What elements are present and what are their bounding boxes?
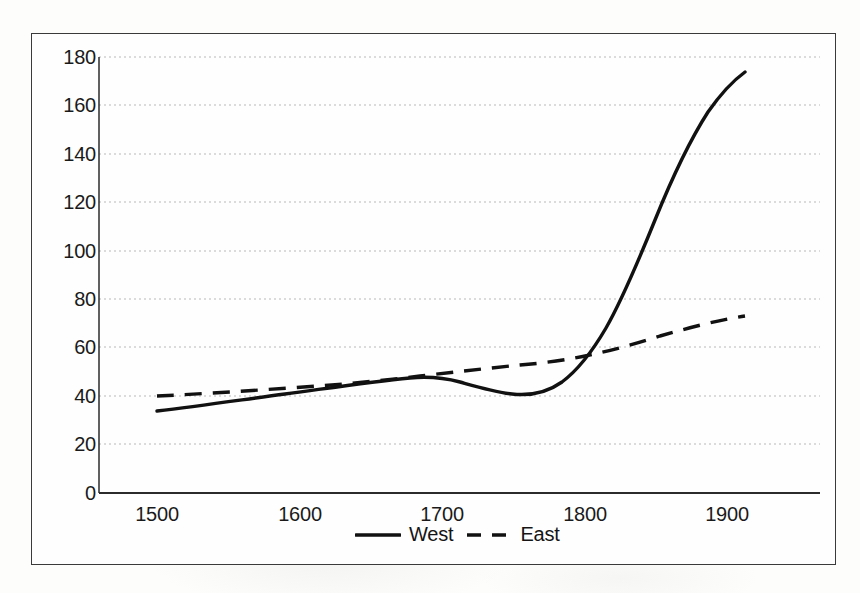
y-tick-label-140: 140 <box>30 143 96 166</box>
x-tick-label-1500: 1500 <box>117 503 197 526</box>
x-tick-label-1600: 1600 <box>260 503 340 526</box>
y-tick-label-60: 60 <box>30 336 96 359</box>
y-tick-label-160: 160 <box>30 94 96 117</box>
legend-entry-west: West <box>355 523 453 546</box>
y-tick-label-100: 100 <box>30 240 96 263</box>
chart-page: 180 160 140 120 100 80 60 40 20 0 1500 1… <box>0 0 860 593</box>
y-tick-label-180: 180 <box>30 46 96 69</box>
y-tick-label-40: 40 <box>30 385 96 408</box>
legend-entry-east: East <box>466 523 559 546</box>
legend-label-west: West <box>409 523 453 546</box>
gridlines <box>99 57 820 444</box>
y-tick-label-120: 120 <box>30 191 96 214</box>
y-tick-label-0: 0 <box>30 482 96 505</box>
series-line-west <box>157 72 745 411</box>
x-tick-label-1900: 1900 <box>687 503 767 526</box>
legend-swatch-solid-icon <box>355 528 401 542</box>
legend-swatch-dashed-icon <box>466 528 512 542</box>
series-line-east <box>157 316 745 396</box>
y-tick-label-80: 80 <box>30 288 96 311</box>
y-tick-label-20: 20 <box>30 433 96 456</box>
chart-legend: West East <box>355 523 560 546</box>
legend-label-east: East <box>520 523 559 546</box>
